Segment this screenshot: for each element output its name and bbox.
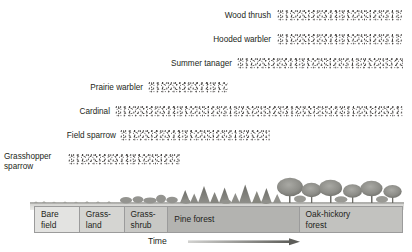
habitat-zone[interactable]: Grass- land xyxy=(80,207,125,232)
habitat-zone-label: Oak-hickory forest xyxy=(300,209,351,230)
time-axis-label: Time xyxy=(148,236,167,246)
abundance-band xyxy=(115,106,403,117)
landscape-silhouette xyxy=(30,162,404,210)
abundance-band xyxy=(237,58,403,69)
species-label: Hooded warbler xyxy=(188,35,271,45)
stipple-texture xyxy=(277,10,403,21)
species-label: Cardinal xyxy=(64,107,110,117)
succession-figure: Wood thrushHooded warblerSummer tanagerP… xyxy=(0,0,412,252)
habitat-zone-label: Bare field xyxy=(35,209,59,230)
habitat-zone[interactable]: Oak-hickory forest xyxy=(300,207,402,232)
stipple-texture xyxy=(148,82,228,93)
stipple-texture xyxy=(115,106,403,117)
stipple-texture xyxy=(237,58,403,69)
abundance-band xyxy=(277,34,403,45)
stipple-texture xyxy=(120,130,270,141)
habitat-zone-label: Pine forest xyxy=(168,214,214,224)
abundance-band xyxy=(120,130,270,141)
habitat-zone[interactable]: Grass- shrub xyxy=(125,207,169,232)
habitat-zone[interactable]: Bare field xyxy=(35,207,80,232)
species-label: Field sparrow xyxy=(48,131,116,141)
habitat-zone-label: Grass- land xyxy=(80,209,111,230)
habitat-zone-label: Grass- shrub xyxy=(125,209,156,230)
species-label: Prairie warbler xyxy=(64,83,143,93)
habitat-zone-bar: Bare fieldGrass- landGrass- shrubPine fo… xyxy=(34,206,403,233)
abundance-band xyxy=(277,10,403,21)
species-label: Summer tanager xyxy=(147,59,232,69)
time-arrow-icon xyxy=(188,237,302,247)
stipple-texture xyxy=(277,34,403,45)
habitat-zone[interactable]: Pine forest xyxy=(168,207,299,232)
abundance-band xyxy=(148,82,228,93)
species-label: Wood thrush xyxy=(207,11,271,21)
